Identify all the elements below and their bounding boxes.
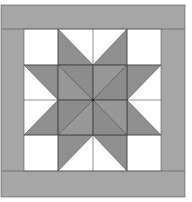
quilt-block xyxy=(0,0,192,202)
center-point xyxy=(92,99,94,101)
